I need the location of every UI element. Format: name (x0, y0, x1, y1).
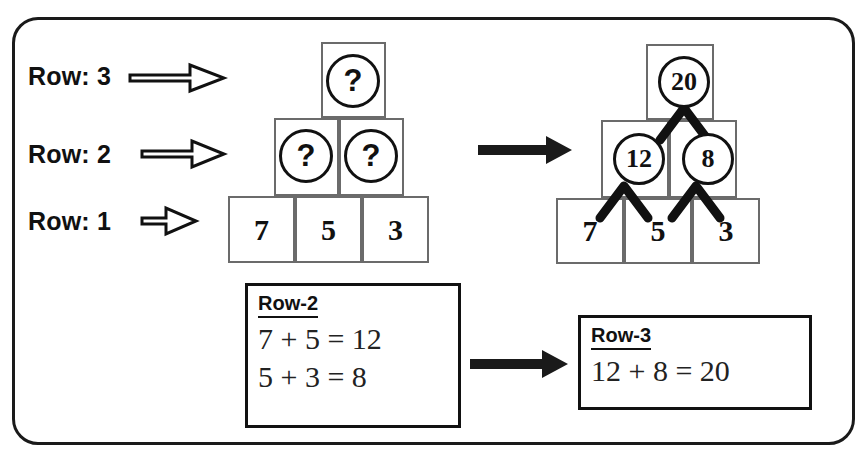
left-pyramid-circle-r2c2[interactable]: ? (344, 129, 398, 183)
right-pyramid-cell-r1c3[interactable]: 3 (692, 198, 760, 264)
left-pyramid-value-r1c1: 7 (230, 213, 293, 247)
right-pyramid-value-r1c3: 3 (694, 214, 758, 248)
left-pyramid-cell-r1c1[interactable]: 7 (228, 196, 295, 263)
left-pyramid-cell-r1c3[interactable]: 3 (362, 196, 429, 263)
left-pyramid-value-r1c3: 3 (364, 213, 427, 247)
left-pyramid-circle-r2c1[interactable]: ? (279, 129, 333, 183)
equation-box-row-3-title: Row-3 (591, 324, 651, 350)
equation-transform-arrow-icon (470, 348, 570, 384)
row-label-2: Row: 2 (28, 140, 111, 169)
worksheet-canvas: Row: 3 Row: 2 Row: 1 ? ? ? 7 5 3 (0, 0, 868, 460)
row-pointer-arrow-2-icon (140, 138, 228, 174)
equation-box-row-2-title: Row-2 (258, 292, 318, 318)
equation-box-row-2: Row-2 7 + 5 = 12 5 + 3 = 8 (245, 283, 461, 428)
right-pyramid-cell-r1c2[interactable]: 5 (624, 198, 692, 264)
row-label-1: Row: 1 (28, 207, 111, 236)
right-pyramid-circle-r3c1[interactable]: 20 (658, 56, 710, 108)
left-pyramid-circle-r3c1[interactable]: ? (326, 54, 380, 108)
row-pointer-arrow-3-icon (128, 62, 228, 98)
equation-box-row-3: Row-3 12 + 8 = 20 (578, 315, 812, 410)
right-pyramid-value-r1c2: 5 (626, 214, 690, 248)
right-pyramid-circle-r2c2[interactable]: 8 (682, 133, 734, 185)
right-pyramid-cell-r1c1[interactable]: 7 (556, 198, 624, 264)
equation-box-row-3-line-1: 12 + 8 = 20 (591, 352, 799, 390)
row-label-3: Row: 3 (28, 62, 111, 91)
left-pyramid-cell-r1c2[interactable]: 5 (295, 196, 362, 263)
row-pointer-arrow-1-icon (140, 205, 200, 241)
right-pyramid-value-r1c1: 7 (558, 214, 622, 248)
left-pyramid-value-r1c2: 5 (297, 213, 360, 247)
pyramid-transform-arrow-icon (478, 134, 574, 170)
right-pyramid-circle-r2c1[interactable]: 12 (613, 133, 665, 185)
equation-box-row-2-line-2: 5 + 3 = 8 (258, 358, 448, 396)
equation-box-row-2-line-1: 7 + 5 = 12 (258, 320, 448, 358)
